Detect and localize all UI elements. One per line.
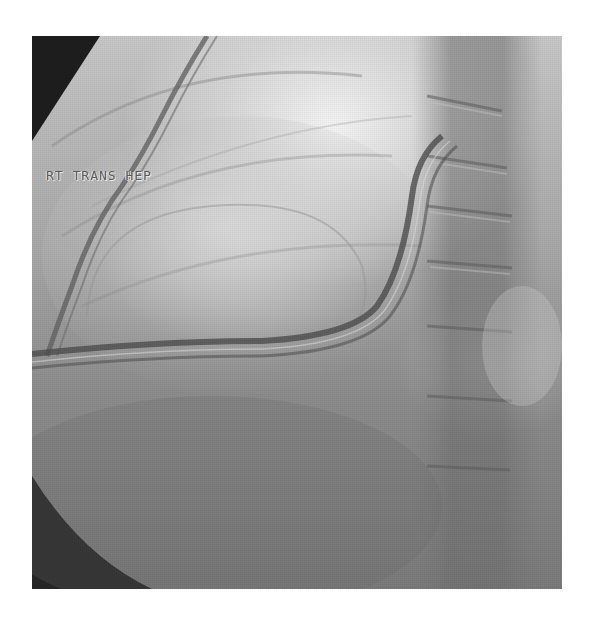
overlay-label: RT TRANS HEP	[46, 168, 152, 183]
collimator-edge-top-left	[32, 36, 100, 141]
fluoroscopy-image: RT TRANS HEP	[32, 36, 562, 589]
anatomy-illustration	[32, 36, 562, 589]
